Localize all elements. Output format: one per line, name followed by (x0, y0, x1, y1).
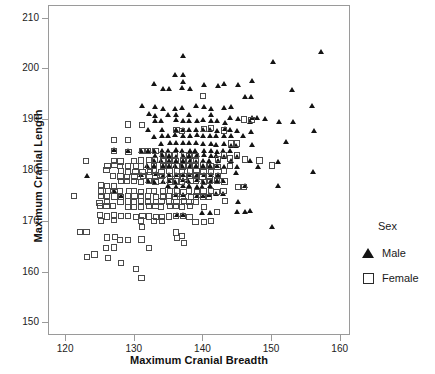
data-point-female (131, 178, 137, 184)
data-point-female (227, 163, 233, 169)
data-point-male (84, 173, 90, 178)
data-point-female (104, 213, 110, 219)
data-point-male (275, 183, 281, 188)
data-point-female (206, 194, 212, 200)
data-point-female (174, 235, 180, 241)
y-tick-label: 160 (0, 266, 39, 277)
data-point-female (193, 178, 199, 184)
data-point-female (227, 155, 233, 161)
data-point-male (248, 94, 254, 99)
data-point-female (125, 213, 131, 219)
data-point-female (97, 203, 103, 209)
data-point-female (125, 237, 131, 243)
data-point-male (166, 86, 172, 91)
data-point-male (227, 148, 233, 153)
data-point-female (145, 148, 151, 154)
data-point-male (254, 115, 260, 120)
data-point-male (180, 53, 186, 58)
data-point-male (186, 112, 192, 117)
data-point-female (117, 237, 123, 243)
data-point-male (159, 133, 165, 138)
data-point-female (159, 218, 165, 224)
data-point-male (247, 208, 253, 213)
data-point-male (201, 104, 207, 109)
data-point-male (151, 81, 157, 86)
x-tick-mark (340, 335, 341, 341)
data-point-female (201, 204, 207, 210)
data-point-female (269, 162, 275, 168)
data-point-male (193, 140, 199, 145)
data-point-male (318, 49, 324, 54)
data-point-female (208, 125, 214, 131)
y-tick-label: 150 (0, 316, 39, 327)
data-point-male (145, 127, 151, 132)
data-point-female (146, 203, 152, 209)
data-point-female (200, 162, 206, 168)
data-point-female (158, 204, 164, 210)
data-point-female (84, 254, 90, 260)
data-point-male (249, 142, 255, 147)
data-point-female (179, 128, 185, 134)
data-point-male (228, 104, 234, 109)
data-point-male (215, 83, 221, 88)
data-point-female (91, 251, 97, 257)
data-point-male (207, 133, 213, 138)
data-point-female (201, 126, 207, 132)
data-point-male (180, 140, 186, 145)
data-point-male (270, 59, 276, 64)
y-axis-title: Maximum Cranial Length (32, 56, 44, 296)
x-tick-label: 160 (320, 343, 360, 354)
data-point-male (240, 133, 246, 138)
data-point-female (83, 229, 89, 235)
data-point-female (151, 218, 157, 224)
data-point-male (207, 210, 213, 215)
data-point-female (138, 179, 144, 185)
data-point-male (269, 224, 275, 229)
data-point-male (235, 199, 241, 204)
data-point-male (208, 112, 214, 117)
data-point-male (151, 134, 157, 139)
data-point-female (234, 140, 240, 146)
legend-item-male[interactable]: Male (360, 243, 435, 263)
data-point-male (193, 103, 199, 108)
plot-area (48, 5, 350, 335)
data-point-male (172, 106, 178, 111)
data-point-male (227, 115, 233, 120)
data-point-male (201, 82, 207, 87)
data-point-female (125, 204, 131, 210)
data-point-male (228, 133, 234, 138)
data-point-male (199, 210, 205, 215)
data-point-female (98, 218, 104, 224)
data-point-female (124, 178, 130, 184)
data-point-male (160, 106, 166, 111)
data-point-female (103, 203, 109, 209)
data-point-female (207, 178, 213, 184)
y-tick-label: 200 (0, 62, 39, 73)
data-point-female (138, 217, 144, 223)
data-point-male (235, 116, 241, 121)
data-point-female (186, 188, 192, 194)
data-point-female (138, 204, 144, 210)
data-point-female (241, 184, 247, 190)
data-point-male (221, 81, 227, 86)
data-point-female (173, 213, 179, 219)
data-point-male (214, 118, 220, 123)
data-point-male (165, 112, 171, 117)
data-point-female (105, 255, 111, 261)
data-point-male (255, 164, 261, 169)
data-point-male (289, 87, 295, 92)
data-point-female (118, 213, 124, 219)
legend-item-female[interactable]: Female (360, 268, 435, 288)
data-point-female (234, 152, 240, 158)
data-point-female (133, 266, 139, 272)
data-point-female (146, 245, 152, 251)
data-point-female (111, 244, 117, 250)
data-point-female (138, 198, 144, 204)
data-point-female (214, 177, 220, 183)
data-point-male (152, 113, 158, 118)
data-point-male (311, 128, 317, 133)
filled-triangle-icon (360, 248, 376, 258)
data-point-male (165, 133, 171, 138)
x-tick-mark (65, 335, 66, 341)
data-point-male (233, 170, 239, 175)
